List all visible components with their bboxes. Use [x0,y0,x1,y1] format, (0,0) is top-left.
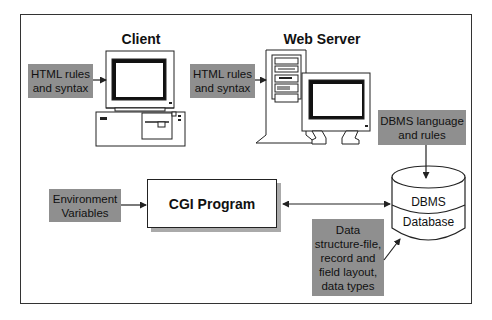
database-label: Database [392,215,465,229]
server-monitor-icon [302,73,370,144]
client-computer-icon [96,51,185,146]
database-dbms-label: DBMS [392,195,465,209]
diagram-graphics [0,0,492,320]
data-structure-arrow [384,239,400,260]
